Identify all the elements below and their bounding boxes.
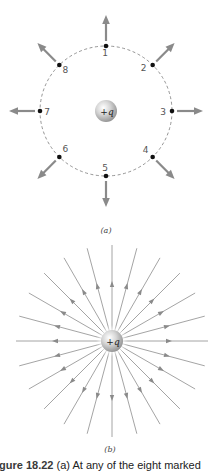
test-point-label-5: 5 xyxy=(102,163,108,173)
field-arrow-6 xyxy=(37,160,55,178)
field-arrow-4 xyxy=(156,160,174,178)
field-line xyxy=(117,350,160,424)
test-point-label-4: 4 xyxy=(143,145,149,155)
panel-a-label: (a) xyxy=(100,226,111,235)
field-line xyxy=(110,351,114,437)
field-arrow-1 xyxy=(102,15,110,41)
panel-b-field-lines: +q (b) xyxy=(16,245,208,454)
field-line xyxy=(121,293,195,336)
test-point-3 xyxy=(170,109,175,114)
field-line xyxy=(29,293,103,336)
field-line xyxy=(122,339,208,343)
test-point-2 xyxy=(150,63,155,68)
field-arrow-8 xyxy=(37,43,55,61)
field-line xyxy=(16,339,102,343)
caption-text: (a) At any of the eight marked xyxy=(53,459,200,471)
charge-label-a: +q xyxy=(100,107,114,117)
test-point-label-8: 8 xyxy=(62,65,68,75)
field-line xyxy=(64,258,107,332)
field-line xyxy=(110,245,114,331)
field-arrow-7 xyxy=(9,107,35,115)
figure-caption: igure 18.22 (a) At any of the eight mark… xyxy=(0,459,220,471)
field-arrow-3 xyxy=(177,107,203,115)
charge-label-b: +q xyxy=(106,337,120,347)
field-line xyxy=(117,258,160,332)
test-point-7 xyxy=(38,109,43,114)
test-point-label-2: 2 xyxy=(141,63,147,73)
field-line xyxy=(64,350,107,424)
figure-number: igure 18.22 xyxy=(0,459,53,471)
test-point-label-6: 6 xyxy=(62,144,68,154)
field-arrow-5 xyxy=(102,181,110,207)
test-point-5 xyxy=(104,174,109,179)
field-arrow-2 xyxy=(156,43,174,61)
electric-field-figure: 12345678 +q (a) +q (b) xyxy=(0,0,220,472)
test-point-label-3: 3 xyxy=(160,107,166,117)
test-point-4 xyxy=(150,155,155,160)
panel-b-label: (b) xyxy=(104,445,115,454)
test-point-8 xyxy=(57,63,62,68)
panel-a-test-points: 12345678 +q (a) xyxy=(9,15,203,235)
test-point-6 xyxy=(57,155,62,160)
test-point-label-7: 7 xyxy=(44,107,50,117)
field-line xyxy=(121,346,195,389)
test-point-label-1: 1 xyxy=(102,48,108,58)
field-line xyxy=(29,346,103,389)
